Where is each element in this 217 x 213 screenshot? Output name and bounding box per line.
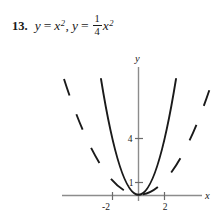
x-tick-label-2: 2 [163, 202, 168, 212]
problem-number: 13. [12, 20, 28, 33]
equation2-rhs-base: x [103, 19, 109, 33]
equation2-lhs: y [72, 19, 78, 33]
equation2-equals: = [81, 19, 89, 33]
y-tick-label-4: 4 [128, 134, 133, 144]
fraction-denominator: 4 [93, 26, 102, 37]
equation1-rhs-base: x [54, 19, 60, 33]
y-tick-label-1: 1 [129, 178, 134, 188]
fraction-numerator: 1 [93, 13, 102, 24]
equation1-equals: = [44, 19, 52, 33]
fraction-one-fourth: 1 4 [93, 13, 102, 37]
parabola-graph: y x -2 2 1 4 [0, 46, 217, 213]
problem-equations: y = x2 , y = 1 4 x2 [35, 14, 113, 38]
problem-figure-page: 13. y = x2 , y = 1 4 x2 [0, 0, 217, 213]
problem-statement: 13. y = x2 , y = 1 4 x2 [12, 14, 113, 38]
equation-separator: , [66, 19, 69, 33]
y-axis-label: y [134, 53, 140, 64]
graph-svg: y x -2 2 1 4 [0, 46, 217, 213]
x-tick-label--2: -2 [102, 202, 110, 212]
x-axis-label: x [204, 190, 210, 201]
equation1-lhs: y [35, 19, 41, 33]
